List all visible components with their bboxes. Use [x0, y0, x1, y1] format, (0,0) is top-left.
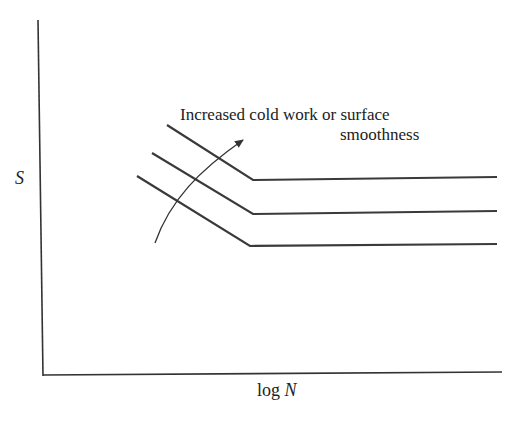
- diagram-canvas: [0, 0, 526, 423]
- x-axis-label: log N: [257, 380, 297, 401]
- sn-diagram: S log N Increased cold work or surface s…: [0, 0, 526, 423]
- x-axis: [43, 372, 502, 375]
- annotation-line2: smoothness: [340, 125, 419, 145]
- x-axis-label-var: N: [285, 380, 297, 400]
- curve-upper: [167, 125, 497, 180]
- increase-arrow: [155, 140, 243, 243]
- x-axis-label-prefix: log: [257, 380, 285, 400]
- y-axis-label: S: [15, 168, 24, 189]
- y-axis: [38, 20, 43, 376]
- curve-middle: [152, 153, 497, 214]
- annotation-line1: Increased cold work or surface: [180, 105, 390, 125]
